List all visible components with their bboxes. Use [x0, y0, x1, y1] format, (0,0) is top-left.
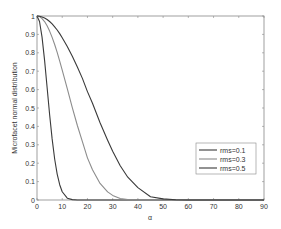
x-tick-label: 40 [134, 203, 142, 210]
y-tick-label: 0.9 [25, 31, 35, 38]
x-tick-label: 0 [35, 203, 39, 210]
y-tick-label: 0.3 [25, 141, 35, 148]
x-axis-label: α [148, 214, 152, 221]
y-tick-label: 0.5 [25, 105, 35, 112]
y-tick-label: 0.4 [25, 123, 35, 130]
x-tick-label: 70 [210, 203, 218, 210]
y-tick-label: 1 [31, 13, 35, 20]
y-tick-label: 0.1 [25, 178, 35, 185]
legend-label: rms=0.3 [220, 156, 246, 163]
x-tick-label: 80 [235, 203, 243, 210]
x-tick-label: 90 [260, 203, 268, 210]
y-tick-label: 0.2 [25, 160, 35, 167]
legend: rms=0.1rms=0.3rms=0.5 [196, 143, 256, 174]
y-tick-label: 0.8 [25, 49, 35, 56]
y-tick-label: 0.6 [25, 86, 35, 93]
x-tick-label: 20 [84, 203, 92, 210]
legend-label: rms=0.1 [220, 147, 246, 154]
x-tick-label: 50 [159, 203, 167, 210]
y-tick-label: 0 [31, 197, 35, 204]
y-axis-label: Microfacet normal distribution [11, 62, 18, 154]
chart-svg: 0102030405060708090 00.10.20.30.40.50.60… [0, 0, 281, 229]
y-tick-label: 0.7 [25, 68, 35, 75]
x-tick-label: 60 [184, 203, 192, 210]
x-tick-label: 30 [109, 203, 117, 210]
legend-label: rms=0.5 [220, 165, 246, 172]
x-tick-label: 10 [58, 203, 66, 210]
